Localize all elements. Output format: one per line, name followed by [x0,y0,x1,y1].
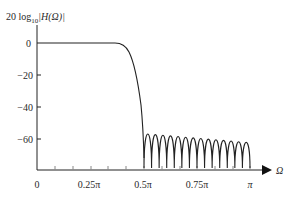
y-tick-label: −60 [17,134,33,145]
x-tick-label: 0 [35,179,40,190]
y-axis-label: 20 log10|H(Ω)| [6,11,65,25]
y-ticks [37,75,41,139]
x-axis-arrow-icon [262,165,272,175]
x-tick-label: 0.75π [186,179,209,190]
y-tick-label: 0 [26,38,31,49]
stopband-ripple-curve [144,134,250,168]
y-tick-label: −40 [17,102,33,113]
x-tick-label: 0.5π [134,179,152,190]
x-ticks [55,166,250,170]
y-tick-label: −20 [17,70,33,81]
x-tick-label: π [247,179,253,190]
x-tick-label: 0.25π [78,179,101,190]
magnitude-response-chart: 20 log10|H(Ω)| Ω 0 −20 −40 −60 0 0.25π 0… [0,0,299,204]
passband-curve [37,43,144,158]
x-axis-label: Ω [276,165,283,176]
